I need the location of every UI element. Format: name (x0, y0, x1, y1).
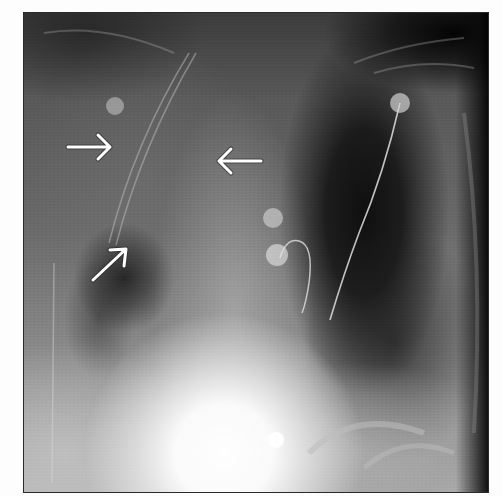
ecg-electrodes (106, 93, 410, 448)
annotation-arrows (68, 135, 261, 280)
ecg-electrode (263, 208, 283, 228)
arrow-up-right-icon (93, 249, 126, 280)
arrow-left-icon (219, 149, 261, 173)
arrow-right-icon (68, 135, 110, 159)
ecg-electrode (268, 432, 284, 448)
ecg-electrode (106, 97, 124, 115)
ecg-lead-wire (330, 103, 400, 320)
xray-overlay (24, 13, 488, 492)
chest-xray-image (24, 13, 488, 492)
ecg-electrode (266, 244, 288, 266)
ecg-electrode (390, 93, 410, 113)
page (0, 0, 503, 496)
